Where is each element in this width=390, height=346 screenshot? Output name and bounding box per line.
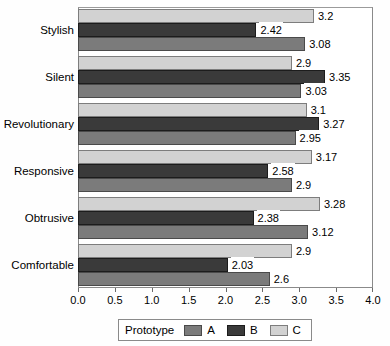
- x-axis-tick: [152, 288, 153, 292]
- x-axis-tick: [226, 288, 227, 292]
- bar-value-label: 2.95: [299, 130, 322, 146]
- bar-value-label: 2.38: [257, 210, 280, 226]
- bar-a: [78, 272, 270, 286]
- legend-label-a: A: [207, 324, 215, 336]
- bar-c: [78, 103, 307, 117]
- x-axis-tick-label: 1.5: [181, 294, 196, 306]
- legend-label-b: B: [250, 324, 258, 336]
- legend-swatch-b: [227, 325, 245, 336]
- bar-c: [78, 197, 320, 211]
- legend-swatch-a: [184, 325, 202, 336]
- y-axis-label-responsive: Responsive: [0, 165, 74, 177]
- bar-group: 3.282.383.12: [78, 194, 373, 241]
- y-axis-label-comfortable: Comfortable: [0, 259, 74, 271]
- x-axis-tick-label: 2.0: [218, 294, 233, 306]
- bar-b: [78, 164, 268, 178]
- y-axis-label-stylish: Stylish: [0, 24, 74, 36]
- x-axis-tick-label: 0.0: [70, 294, 85, 306]
- bar-group: 3.22.423.08: [78, 7, 373, 54]
- chart-legend: Prototype ABC: [118, 319, 312, 341]
- x-axis-tick: [336, 288, 337, 292]
- x-axis-tick: [115, 288, 116, 292]
- bar-group: 3.172.582.9: [78, 148, 373, 195]
- bar-b: [78, 211, 254, 225]
- x-axis-tick: [299, 288, 300, 292]
- bar-a: [78, 225, 308, 239]
- legend-entry-a: A: [184, 324, 215, 336]
- bar-a: [78, 131, 296, 145]
- legend-swatch-c: [270, 325, 288, 336]
- bar-c: [78, 56, 292, 70]
- legend-entry-b: B: [227, 324, 258, 336]
- x-axis-tick: [78, 288, 79, 292]
- x-axis-tick-label: 2.5: [255, 294, 270, 306]
- bar-b: [78, 23, 256, 37]
- bar-group: 2.93.353.03: [78, 54, 373, 101]
- bar-value-label: 2.6: [273, 271, 290, 287]
- bar-chart: StylishSilentRevolutionaryResponsiveObtr…: [0, 0, 390, 346]
- bar-value-label: 2.03: [231, 257, 254, 273]
- bar-c: [78, 244, 292, 258]
- legend-entry-c: C: [270, 324, 301, 336]
- bar-group: 2.92.032.6: [78, 241, 373, 288]
- x-axis-tick-label: 3.5: [328, 294, 343, 306]
- bar-c: [78, 150, 312, 164]
- plot-area: 3.22.423.082.93.353.033.13.272.953.172.5…: [78, 7, 373, 288]
- x-axis-tick-label: 1.0: [144, 294, 159, 306]
- bar-value-label: 3.35: [328, 69, 351, 85]
- bar-value-label: 2.9: [295, 243, 312, 259]
- bar-a: [78, 178, 292, 192]
- bar-value-label: 3.17: [315, 149, 338, 165]
- bar-a: [78, 37, 305, 51]
- x-axis-tick: [372, 288, 373, 292]
- legend-entries: ABC: [184, 324, 313, 336]
- bar-b: [78, 117, 319, 131]
- x-axis-tick-label: 0.5: [107, 294, 122, 306]
- bar-value-label: 3.2: [317, 8, 334, 24]
- y-axis-label-silent: Silent: [0, 71, 74, 83]
- x-axis-tick: [189, 288, 190, 292]
- legend-title: Prototype: [125, 324, 174, 336]
- y-axis-category-labels: StylishSilentRevolutionaryResponsiveObtr…: [0, 7, 74, 288]
- bar-b: [78, 258, 228, 272]
- bar-value-label: 3.28: [323, 196, 346, 212]
- x-axis: 0.00.51.01.52.02.53.03.54.0: [78, 288, 373, 310]
- x-axis-tick-label: 4.0: [365, 294, 380, 306]
- y-axis-label-obtrusive: Obtrusive: [0, 212, 74, 224]
- x-axis-tick-label: 3.0: [292, 294, 307, 306]
- bar-b: [78, 70, 325, 84]
- bar-value-label: 2.42: [259, 22, 282, 38]
- bar-value-label: 2.9: [295, 55, 312, 71]
- x-axis-tick: [262, 288, 263, 292]
- bar-value-label: 3.12: [311, 224, 334, 240]
- y-axis-label-revolutionary: Revolutionary: [0, 118, 74, 130]
- bar-a: [78, 84, 301, 98]
- bar-value-label: 3.27: [322, 116, 345, 132]
- bar-value-label: 3.03: [304, 83, 327, 99]
- bar-c: [78, 9, 314, 23]
- bar-group: 3.13.272.95: [78, 101, 373, 148]
- bar-value-label: 2.9: [295, 177, 312, 193]
- bar-value-label: 3.08: [308, 36, 331, 52]
- legend-label-c: C: [293, 324, 301, 336]
- bar-value-label: 2.58: [271, 163, 294, 179]
